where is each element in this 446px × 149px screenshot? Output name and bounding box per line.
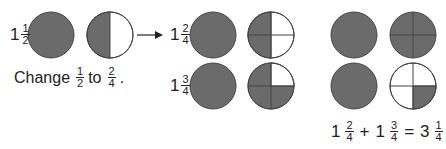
denominator: 4 xyxy=(346,132,352,143)
whole: 1 xyxy=(376,122,385,142)
fraction: 34 xyxy=(181,74,189,97)
whole: 1 xyxy=(10,25,19,45)
two-quarters-circle xyxy=(248,12,294,58)
fraction: 12 xyxy=(76,66,84,89)
whole: 3 xyxy=(420,122,429,142)
four-quarters-circle xyxy=(390,12,436,58)
mixed-number-left: 1 12 xyxy=(10,23,30,46)
whole: 1 xyxy=(170,76,179,96)
denominator: 2 xyxy=(77,78,83,89)
one-quarter-circle xyxy=(390,63,436,109)
mixed-number-middle-2: 1 34 xyxy=(170,74,190,97)
fraction: 24 xyxy=(181,23,189,46)
fraction: 24 xyxy=(345,120,353,143)
denominator: 2 xyxy=(22,35,28,46)
whole: 1 xyxy=(331,122,340,142)
denominator: 4 xyxy=(436,132,442,143)
whole-circle xyxy=(190,12,236,58)
three-quarters-circle xyxy=(248,63,294,109)
sum-equation: 1 24 + 1 34 = 3 14 xyxy=(331,120,443,143)
caption-text: to xyxy=(88,69,101,87)
caption: Change 12 to 24 . xyxy=(14,66,124,89)
equals-operator: = xyxy=(404,122,414,142)
denominator: 4 xyxy=(109,78,115,89)
fraction: 12 xyxy=(21,23,29,46)
denominator: 4 xyxy=(182,86,188,97)
denominator: 4 xyxy=(391,132,397,143)
caption-text: Change xyxy=(14,69,70,87)
whole: 1 xyxy=(170,25,179,45)
whole-circle xyxy=(331,63,377,109)
fraction: 34 xyxy=(390,120,398,143)
mixed-number-middle-1: 1 24 xyxy=(170,23,190,46)
denominator: 4 xyxy=(182,35,188,46)
whole-circle xyxy=(28,12,74,58)
fraction: 24 xyxy=(108,66,116,89)
caption-text: . xyxy=(120,69,124,87)
fraction: 14 xyxy=(435,120,443,143)
half-circle xyxy=(87,12,133,58)
plus-operator: + xyxy=(360,122,370,142)
arrow-icon xyxy=(137,31,163,39)
whole-circle xyxy=(190,63,236,109)
whole-circle xyxy=(331,12,377,58)
